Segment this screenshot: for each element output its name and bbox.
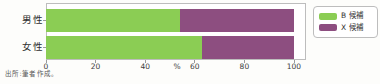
legend-item-x-candidate: X 候補	[319, 24, 372, 32]
bar-segment-x-candidate	[180, 9, 294, 32]
legend-label: X 候補	[341, 24, 363, 32]
bar-segment-b-candidate	[46, 36, 202, 59]
bar-segment-x-candidate	[202, 36, 294, 59]
bar-segment-b-candidate	[46, 9, 180, 32]
x-axis-tick-label: 40	[133, 62, 157, 71]
x-axis-tick-label: 20	[84, 62, 108, 71]
x-axis-tick-label: 60	[183, 62, 207, 71]
x-axis-unit-label: %	[169, 62, 185, 71]
legend-label: B 候補	[341, 12, 363, 20]
category-label-female: 女性	[0, 42, 43, 52]
stacked-bar-chart-figure: 男性 女性 020406080100 % B 候補 X 候補 出所:筆者作成。	[0, 0, 380, 84]
legend: B 候補 X 候補	[313, 6, 378, 38]
legend-swatch-purple-icon	[319, 24, 337, 31]
x-axis-tick-label: 100	[282, 62, 306, 71]
bar-female	[46, 36, 294, 59]
source-note: 出所:筆者作成。	[5, 70, 59, 78]
bar-male	[46, 9, 294, 32]
category-label-male: 男性	[0, 15, 43, 25]
legend-item-b-candidate: B 候補	[319, 12, 372, 20]
x-axis-tick-label: 80	[232, 62, 256, 71]
legend-swatch-green-icon	[319, 13, 337, 20]
